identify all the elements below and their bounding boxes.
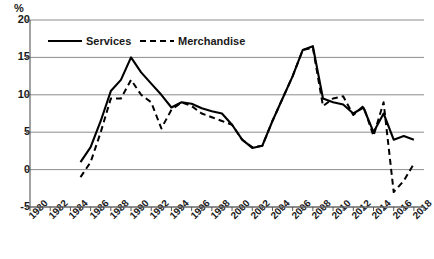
series-line-services	[81, 46, 414, 162]
legend-label-services: Services	[86, 35, 131, 47]
series-line-merchandise	[81, 48, 414, 192]
legend-swatch-services	[48, 36, 82, 46]
legend-label-merchandise: Merchandise	[178, 35, 245, 47]
legend-swatch-merchandise	[140, 36, 174, 46]
